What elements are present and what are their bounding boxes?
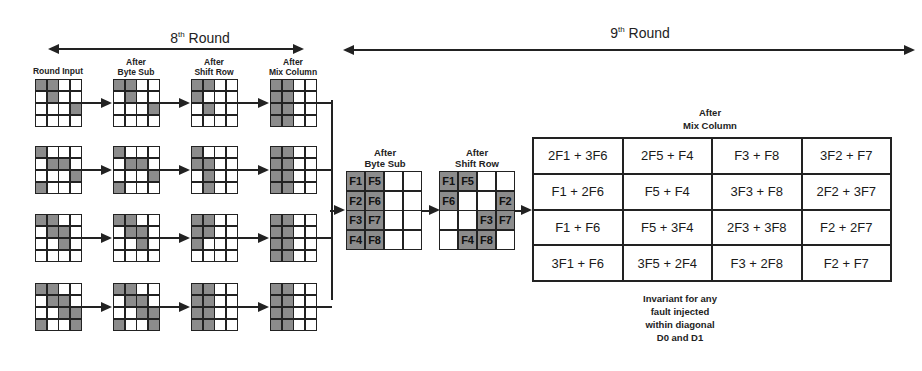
byte-cell <box>59 116 69 126</box>
faulty-byte-cell <box>59 239 69 249</box>
byte-cell <box>227 80 237 90</box>
byte-cell <box>215 104 225 114</box>
faulty-byte-cell <box>71 104 81 114</box>
state-grid-after-mix-column-row-4 <box>270 283 317 331</box>
faulty-byte-cell <box>59 159 69 169</box>
byte-cell <box>149 296 159 306</box>
byte-cell <box>294 239 304 249</box>
faulty-byte-cell <box>271 251 281 261</box>
mix-column-cell-r4-c2: 3F5 + 2F4 <box>624 246 712 280</box>
arrow-right-icon <box>101 302 112 312</box>
fault-byte-f2: F2 <box>497 192 514 210</box>
byte-cell <box>294 284 304 294</box>
faulty-byte-cell <box>204 215 214 225</box>
arrow-right-icon <box>258 302 269 312</box>
faulty-byte-cell <box>137 239 147 249</box>
byte-cell <box>114 308 124 318</box>
byte-cell <box>459 211 476 229</box>
byte-cell <box>36 92 46 102</box>
byte-cell <box>36 159 46 169</box>
faulty-byte-cell <box>283 116 293 126</box>
faulty-byte-cell <box>192 215 202 225</box>
fault-byte-f7: F7 <box>497 211 514 229</box>
byte-cell <box>59 183 69 193</box>
byte-cell <box>48 147 58 157</box>
byte-cell <box>149 147 159 157</box>
byte-cell <box>149 251 159 261</box>
byte-cell <box>215 227 225 237</box>
byte-cell <box>137 251 147 261</box>
faulty-byte-cell <box>137 308 147 318</box>
faulty-byte-cell <box>114 147 124 157</box>
byte-cell <box>149 183 159 193</box>
mix-column-cell-r4-c4: F2 + F7 <box>803 246 891 280</box>
faulty-byte-cell <box>192 320 202 330</box>
byte-cell <box>126 239 136 249</box>
byte-cell <box>59 80 69 90</box>
byte-cell <box>215 296 225 306</box>
faulty-byte-cell <box>126 284 136 294</box>
round-9-span-line <box>350 49 908 51</box>
byte-cell <box>48 320 58 330</box>
mix-column-cell-r2-c2: F5 + F4 <box>624 175 712 209</box>
byte-cell <box>149 159 159 169</box>
faulty-byte-cell <box>59 296 69 306</box>
byte-cell <box>36 171 46 181</box>
faulty-byte-cell <box>48 80 58 90</box>
byte-cell <box>114 116 124 126</box>
byte-cell <box>306 92 316 102</box>
byte-cell <box>149 116 159 126</box>
byte-cell <box>149 215 159 225</box>
byte-cell <box>126 104 136 114</box>
byte-cell <box>215 308 225 318</box>
faulty-byte-cell <box>192 308 202 318</box>
faulty-byte-cell <box>71 308 81 318</box>
arrow-right-icon <box>179 233 190 243</box>
fault-byte-f7: F7 <box>366 211 383 229</box>
arrow-right-head <box>904 45 915 55</box>
to-bracket-line <box>317 169 332 171</box>
faulty-byte-cell <box>126 215 136 225</box>
mix-column-cell-r1-c1: 2F1 + 3F6 <box>534 139 622 173</box>
byte-cell <box>227 308 237 318</box>
faulty-byte-cell <box>36 183 46 193</box>
mix-column-cell-r1-c3: F3 + F8 <box>713 139 801 173</box>
byte-cell <box>59 251 69 261</box>
byte-cell <box>137 147 147 157</box>
byte-cell <box>294 171 304 181</box>
byte-cell <box>71 183 81 193</box>
byte-cell <box>404 192 421 210</box>
byte-cell <box>497 231 514 249</box>
faulty-byte-cell <box>192 227 202 237</box>
arrow-right-icon <box>179 165 190 175</box>
faulty-byte-cell <box>271 239 281 249</box>
byte-cell <box>306 320 316 330</box>
faulty-byte-cell <box>204 171 214 181</box>
byte-cell <box>227 227 237 237</box>
byte-cell <box>215 147 225 157</box>
byte-cell <box>306 159 316 169</box>
byte-cell <box>137 215 147 225</box>
faulty-byte-cell <box>271 215 281 225</box>
faulty-byte-cell <box>114 215 124 225</box>
fault-byte-f6: F6 <box>440 192 457 210</box>
label-after-byte-sub: After Byte Sub <box>106 57 166 77</box>
byte-cell <box>48 251 58 261</box>
byte-cell <box>48 171 58 181</box>
byte-cell <box>294 215 304 225</box>
faulty-byte-cell <box>283 308 293 318</box>
faulty-byte-cell <box>283 80 293 90</box>
fault-byte-f1: F1 <box>347 172 364 190</box>
byte-cell <box>36 116 46 126</box>
arrow-right-icon <box>101 233 112 243</box>
faulty-byte-cell <box>36 284 46 294</box>
faulty-byte-cell <box>192 80 202 90</box>
faulty-byte-cell <box>283 320 293 330</box>
byte-cell <box>385 231 402 249</box>
faulty-byte-cell <box>204 284 214 294</box>
faulty-byte-cell <box>36 147 46 157</box>
byte-cell <box>306 104 316 114</box>
faulty-byte-cell <box>192 147 202 157</box>
fault-byte-f1: F1 <box>440 172 457 190</box>
byte-cell <box>137 320 147 330</box>
